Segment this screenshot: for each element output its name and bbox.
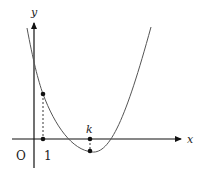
y-axis-label: y: [30, 6, 38, 19]
tick-label-k: k: [86, 123, 93, 136]
point-on-curve-at-1: [41, 92, 46, 97]
point-x-axis-at-1: [41, 137, 46, 142]
function-graph: y x O 1 k: [0, 0, 202, 170]
point-x-axis-at-k: [88, 137, 93, 142]
tick-label-one: 1: [44, 149, 52, 163]
origin-label: O: [16, 149, 26, 163]
x-axis-label: x: [187, 133, 194, 146]
point-on-curve-at-k: [88, 149, 93, 154]
